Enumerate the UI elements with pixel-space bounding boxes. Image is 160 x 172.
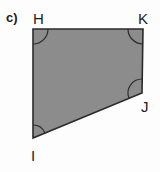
polygon-HKJI <box>33 29 143 138</box>
quadrilateral-figure-svg <box>0 0 160 172</box>
geometry-figure-container: c) H K J I <box>0 0 160 172</box>
part-label: c) <box>6 11 18 24</box>
vertex-label-K: K <box>138 11 148 26</box>
vertex-label-J: J <box>141 99 149 114</box>
vertex-label-I: I <box>31 148 35 163</box>
vertex-label-H: H <box>33 11 44 26</box>
